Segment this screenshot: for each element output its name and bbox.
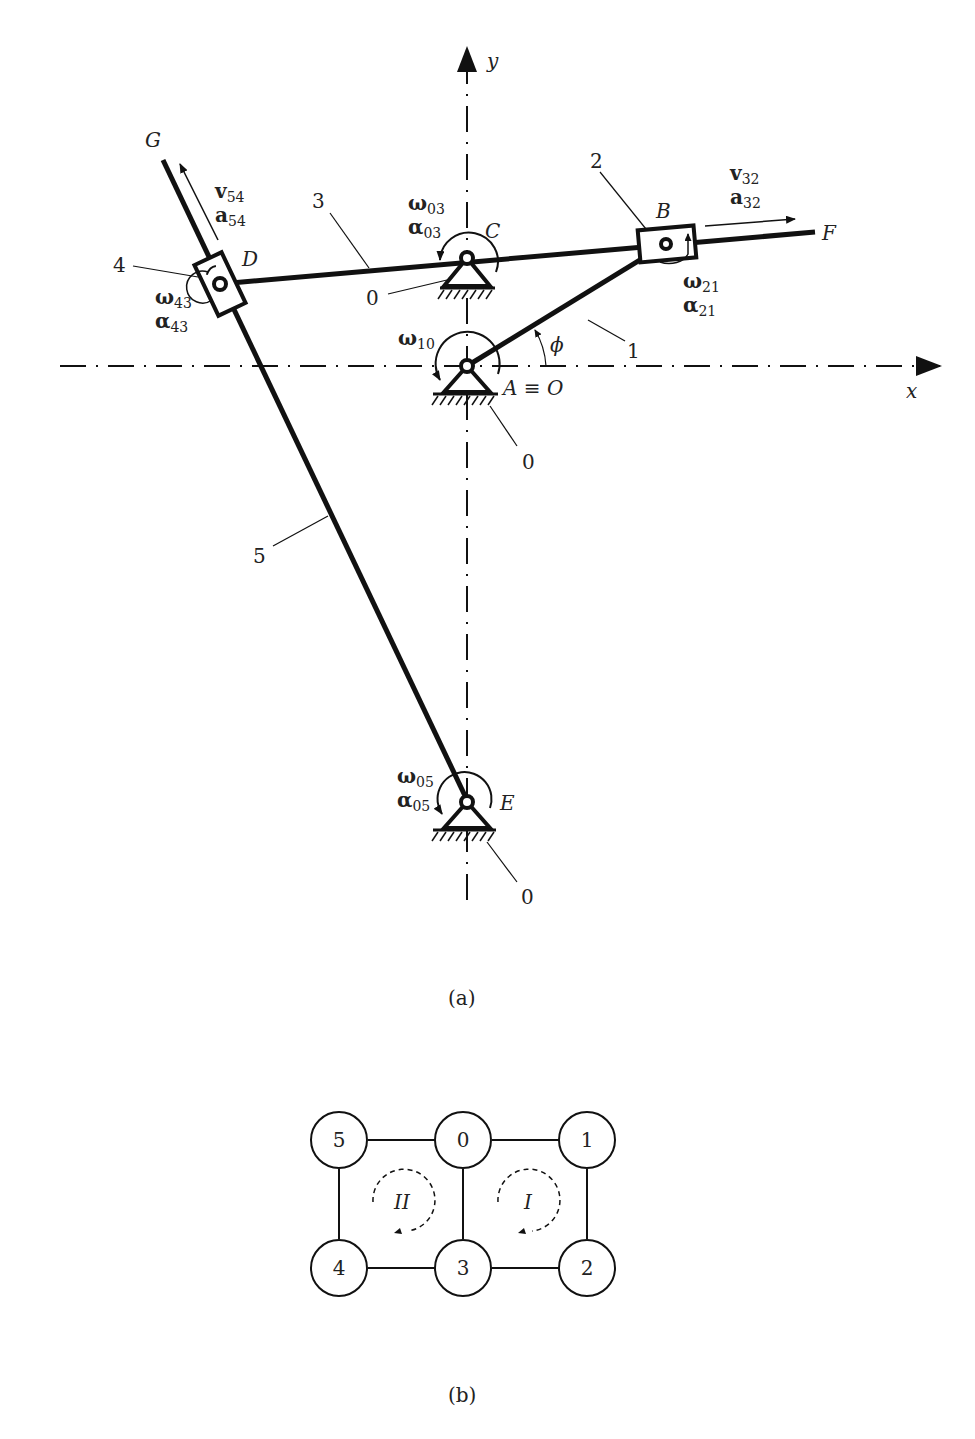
- phi-arc: [535, 330, 546, 366]
- mechanism-diagram: x y: [0, 0, 975, 1439]
- caption-a: (a): [448, 986, 476, 1010]
- label-a-o: A ≡ O: [501, 376, 563, 400]
- loop-i-label: I: [523, 1190, 533, 1214]
- label-a32: a32: [730, 185, 761, 211]
- joint-b: [661, 239, 671, 249]
- y-axis-label: y: [486, 49, 499, 73]
- label-link-1: 1: [627, 339, 640, 363]
- label-a54: a54: [215, 203, 246, 229]
- v32-arrow: [705, 219, 795, 226]
- label-omega03: ω03: [408, 191, 445, 217]
- node-3-label: 3: [457, 1256, 470, 1280]
- label-omega10: ω10: [398, 326, 435, 352]
- label-d: D: [241, 247, 258, 271]
- joint-d: [214, 278, 226, 290]
- label-ground-e: 0: [521, 885, 534, 909]
- label-alpha05: α05: [397, 788, 430, 814]
- label-link-5: 5: [253, 544, 266, 568]
- label-omega05: ω05: [397, 764, 434, 790]
- loop-ii-label: II: [393, 1190, 411, 1214]
- contour-graph: 5 0 1 4 3 2 II I: [311, 1112, 615, 1296]
- caption-b: (b): [448, 1383, 476, 1407]
- label-alpha43: α43: [155, 309, 188, 335]
- pivot-e: [432, 772, 496, 841]
- node-0-label: 0: [457, 1128, 470, 1152]
- label-alpha03: α03: [408, 215, 441, 241]
- label-ground-c: 0: [366, 286, 379, 310]
- label-link-3: 3: [312, 189, 325, 213]
- x-axis-label: x: [906, 379, 917, 403]
- node-5-label: 5: [333, 1128, 346, 1152]
- label-link-4: 4: [113, 253, 126, 277]
- label-ground-a: 0: [522, 450, 535, 474]
- link-3: [220, 232, 815, 284]
- label-c: C: [485, 219, 500, 243]
- label-omega21: ω21: [683, 269, 720, 295]
- label-alpha21: α21: [683, 293, 716, 319]
- node-2-label: 2: [581, 1256, 594, 1280]
- label-e: E: [499, 791, 515, 815]
- label-g: G: [145, 128, 161, 152]
- node-4-label: 4: [333, 1256, 346, 1280]
- label-v32: v32: [729, 161, 759, 187]
- label-f: F: [821, 221, 837, 245]
- label-b: B: [655, 199, 671, 223]
- node-1-label: 1: [581, 1128, 594, 1152]
- label-phi: ϕ: [550, 333, 564, 357]
- label-v54: v54: [214, 179, 245, 205]
- link-5: [163, 160, 467, 800]
- label-link-2: 2: [590, 149, 603, 173]
